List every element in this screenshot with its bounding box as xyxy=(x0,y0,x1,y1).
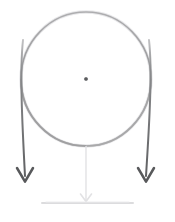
diagram-canvas xyxy=(0,0,175,222)
left-force-arrow xyxy=(17,40,33,182)
physics-diagram-svg xyxy=(0,0,175,222)
ground-group xyxy=(42,202,133,203)
right-force-arrow xyxy=(138,40,154,182)
center-dot xyxy=(84,77,88,81)
support-group xyxy=(81,146,92,202)
